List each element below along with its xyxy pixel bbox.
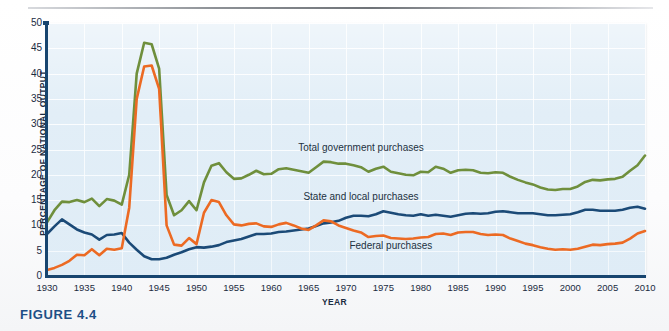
y-axis-line (45, 21, 48, 278)
gridline-vertical (645, 23, 646, 276)
y-axis-tick-label: 20 (20, 170, 42, 180)
top-divider-rule (28, 7, 653, 9)
series-label: Total government purchases (298, 142, 424, 153)
y-axis-tick-label: 5 (20, 246, 42, 256)
series-label: State and local purchases (303, 191, 418, 202)
y-axis-tick-label: 45 (20, 43, 42, 53)
y-axis-tick-label: 0 (20, 271, 42, 281)
series-line (47, 66, 645, 270)
figure-4-4: PERCENTAGE OF NATIONAL OUTPUT 0510152025… (0, 0, 669, 331)
y-axis-tick-label: 10 (20, 220, 42, 230)
x-axis-line (45, 275, 646, 278)
y-axis-tick-label: 40 (20, 69, 42, 79)
y-axis-tick-label: 25 (20, 145, 42, 155)
y-axis-tick-label: 50 (20, 18, 42, 28)
x-axis-title: YEAR (0, 297, 669, 307)
figure-caption: FIGURE 4.4 (20, 307, 97, 322)
y-axis-tick-label: 30 (20, 119, 42, 129)
y-axis-tick-label: 15 (20, 195, 42, 205)
y-axis-tick-label: 35 (20, 94, 42, 104)
x-axis-tick-label: 2010 (623, 282, 667, 293)
y-axis-top-cap (43, 21, 49, 25)
series-line (47, 207, 645, 260)
series-label: Federal purchases (349, 240, 432, 251)
